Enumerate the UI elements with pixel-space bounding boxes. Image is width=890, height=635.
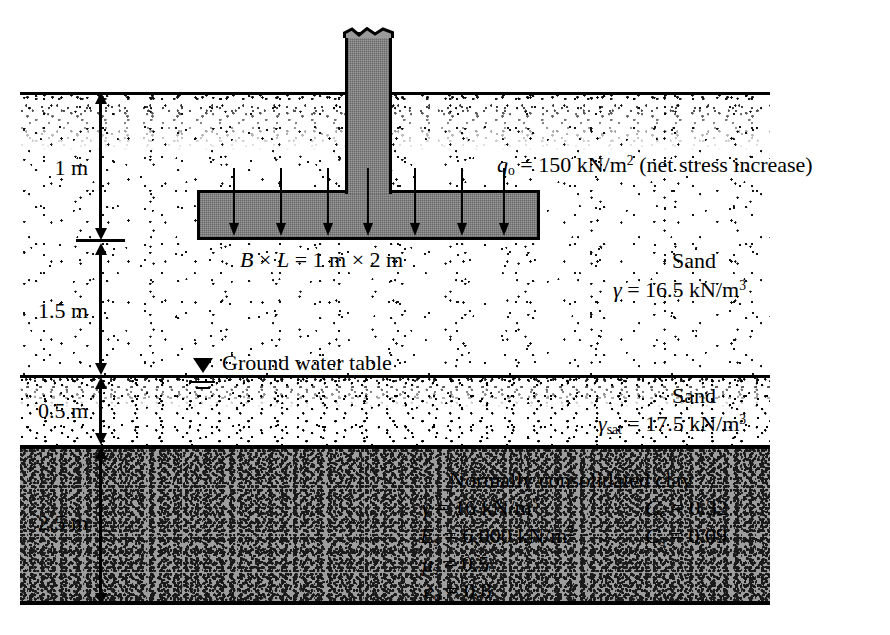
dimension-label-clay-thickness: 2.5 m bbox=[6, 512, 88, 534]
sand-saturated-title: Sand bbox=[672, 383, 716, 409]
clay-title: Normally consolidated clay bbox=[449, 467, 692, 493]
sand-upper-gamma-value: 16.5 kN/m bbox=[645, 277, 739, 302]
clay-cs-equals: = bbox=[671, 523, 683, 548]
clay-compression-index: Cc = 0.32 bbox=[645, 495, 728, 522]
clay-swell-index: Cs = 0.09 bbox=[645, 523, 727, 550]
clay-mu-value: 0.5 bbox=[462, 551, 490, 576]
clay-es-value: 6,000 kN/m bbox=[462, 523, 567, 548]
clay-cc-symbol: Cc bbox=[645, 495, 666, 520]
clay-gamma-equals: = bbox=[436, 495, 448, 520]
clay-mu-symbol: μs bbox=[422, 551, 438, 576]
footing-equals: = bbox=[295, 247, 307, 272]
dimension-line-saturated-sand bbox=[94, 377, 107, 445]
dimension-line-sand-above-gwt bbox=[94, 243, 107, 375]
clay-cs-value: 0.09 bbox=[688, 523, 727, 548]
load-arrow bbox=[322, 168, 334, 236]
sand-sat-gamma-symbol: γsat bbox=[598, 411, 622, 436]
dimension-line-embedment-depth bbox=[94, 92, 107, 240]
dimension-line-clay-thickness bbox=[94, 447, 107, 605]
clay-gamma-symbol: γ bbox=[422, 495, 431, 520]
clay-modulus: Es = 6,000 kN/m2 bbox=[420, 523, 574, 550]
dimension-label-sand-above-gwt: 1.5 m bbox=[6, 300, 88, 322]
clay-eo-symbol: eo bbox=[424, 578, 441, 603]
clay-gamma: γ = 16 kN/m3 bbox=[422, 495, 539, 521]
clay-eo-value: 0.8 bbox=[464, 578, 492, 603]
column-break-line-icon bbox=[343, 26, 394, 40]
load-arrow bbox=[275, 168, 287, 236]
sand-sat-gamma-equals: = bbox=[627, 411, 639, 436]
sand-upper-gamma-symbol: γ bbox=[613, 277, 622, 302]
clay-es-symbol: Es bbox=[420, 523, 439, 548]
surcharge-equals: = bbox=[520, 152, 532, 177]
surcharge-exponent: 2 bbox=[627, 153, 634, 168]
clay-cs-symbol: Cs bbox=[645, 523, 665, 548]
clay-cc-value: 0.32 bbox=[689, 495, 728, 520]
surcharge-note: (net stress increase) bbox=[639, 152, 812, 177]
dimension-label-embedment-depth: 1 m bbox=[20, 157, 88, 179]
clay-gamma-exponent: 3 bbox=[532, 496, 539, 511]
soil-profile-diagram: 1 m 1.5 m 0.5 m 2.5 m Ground water table… bbox=[0, 0, 890, 635]
sand-upper-gamma-equals: = bbox=[627, 277, 639, 302]
clay-void-ratio: eo = 0.8 bbox=[424, 578, 492, 605]
sand-saturated-unit-weight: γsat = 17.5 kN/m3 bbox=[598, 411, 746, 438]
clay-gamma-value: 16 kN/m bbox=[454, 495, 532, 520]
ground-water-table-label: Ground water table bbox=[222, 350, 392, 376]
load-arrow bbox=[456, 168, 468, 236]
load-arrow bbox=[228, 168, 240, 236]
footing-dimension-label: B × L = 1 m × 2 m bbox=[240, 247, 403, 273]
ground-water-table-icon bbox=[186, 358, 220, 390]
clay-es-equals: = bbox=[444, 523, 456, 548]
sand-sat-gamma-exponent: 3 bbox=[739, 412, 746, 427]
footing-dimension-value: 1 m × 2 m bbox=[313, 247, 404, 272]
sand-upper-title: Sand bbox=[672, 248, 716, 274]
surcharge-symbol: qo bbox=[497, 152, 515, 177]
clay-poisson: μs = 0.5 bbox=[422, 551, 489, 578]
clay-mu-equals: = bbox=[444, 551, 456, 576]
sand-upper-gamma-exponent: 3 bbox=[739, 278, 746, 293]
clay-cc-equals: = bbox=[671, 495, 683, 520]
sand-upper-unit-weight: γ = 16.5 kN/m3 bbox=[613, 277, 746, 303]
footing-times-1: × bbox=[259, 247, 271, 272]
footing-length-symbol: L bbox=[277, 247, 289, 272]
surcharge-load-label: qo = 150 kN/m2 (net stress increase) bbox=[497, 152, 813, 179]
dimension-tick-footing-base bbox=[76, 239, 125, 242]
footing-width-symbol: B bbox=[240, 247, 253, 272]
load-arrow bbox=[362, 168, 374, 236]
clay-es-exponent: 2 bbox=[567, 524, 574, 539]
dimension-label-saturated-sand: 0.5 m bbox=[6, 400, 88, 422]
clay-eo-equals: = bbox=[446, 578, 458, 603]
load-arrow bbox=[409, 168, 421, 236]
surcharge-value: 150 kN/m bbox=[538, 152, 627, 177]
sand-sat-gamma-value: 17.5 kN/m bbox=[645, 411, 739, 436]
